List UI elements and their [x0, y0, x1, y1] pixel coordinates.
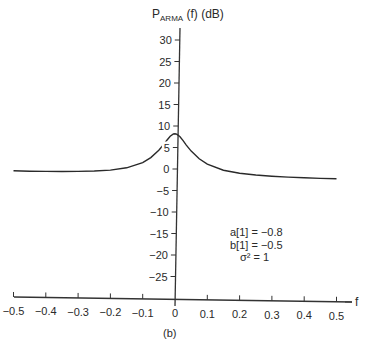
- psd-chart: f 30252015100−5−10−15−20−25 −0.5−0.4−0.3…: [0, 0, 372, 350]
- y-tick-label: 10: [158, 120, 170, 132]
- y-tick-label: 0: [163, 163, 169, 175]
- axes: f: [14, 28, 359, 309]
- x-tick-label: 0.4: [297, 309, 312, 321]
- y-tick-label: −25: [149, 271, 168, 283]
- y-tick-label: 15: [158, 99, 170, 111]
- y-tick-label: −10: [150, 206, 169, 218]
- x-axis-label: f: [355, 295, 359, 309]
- x-tick-label: 0.1: [200, 308, 215, 320]
- x-tick-label: 0.5: [329, 310, 344, 322]
- annotation-sigma: σ² = 1: [240, 251, 269, 263]
- y-tick-label: 25: [159, 56, 171, 68]
- x-tick-label: 0.3: [264, 309, 279, 321]
- y-tick-label: −5: [157, 185, 170, 197]
- y-tick-label: −20: [149, 249, 168, 261]
- y-ticks: 30252015100−5−10−15−20−25: [149, 34, 180, 283]
- x-ticks: −0.5−0.4−0.3−0.2−0.100.10.20.30.40.5: [3, 292, 345, 322]
- y-tick-label: 30: [160, 34, 172, 46]
- x-axis-line: [14, 297, 352, 302]
- x-tick-label: −0.2: [100, 306, 122, 318]
- y-axis-line: [175, 28, 180, 306]
- y-tick-label: 20: [159, 77, 171, 89]
- x-tick-label: 0.2: [232, 308, 247, 320]
- annotation-b1: b[1] = −0.5: [230, 239, 283, 251]
- x-tick-label: −0.3: [67, 306, 89, 318]
- psd-curve: [14, 134, 337, 179]
- x-tick-label: 0: [172, 307, 178, 319]
- y-tick-label-5: 5: [164, 142, 170, 154]
- annotation-a1: a[1] = −0.8: [230, 226, 283, 238]
- x-tick-label: −0.4: [35, 305, 57, 317]
- x-tick-label: −0.1: [132, 307, 154, 319]
- x-tick-label: −0.5: [3, 305, 25, 317]
- panel-label: (b): [163, 327, 176, 339]
- y-tick-label: −15: [150, 228, 169, 240]
